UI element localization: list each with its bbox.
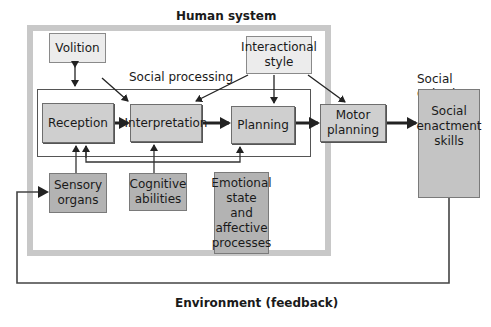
sensory-organs-box: Sensory organs: [49, 173, 107, 213]
reception-box: Reception: [42, 103, 114, 143]
social-enactment-skills-box: Social enactment skills: [418, 89, 480, 198]
social-processing-label: Social processing: [129, 70, 233, 84]
volition-box: Volition: [49, 33, 106, 63]
environment-feedback-label: Environment (feedback): [175, 296, 338, 310]
motor-planning-box: Motor planning: [320, 104, 386, 142]
cognitive-abilities-box: Cognitive abilities: [129, 173, 187, 211]
interactional-style-box: Interactional style: [246, 36, 312, 74]
emotional-state-box: Emotional state and affective processes: [214, 172, 269, 254]
human-system-title: Human system: [176, 9, 276, 23]
interpretation-box: Interpretation: [130, 104, 202, 142]
planning-box: Planning: [231, 106, 295, 144]
